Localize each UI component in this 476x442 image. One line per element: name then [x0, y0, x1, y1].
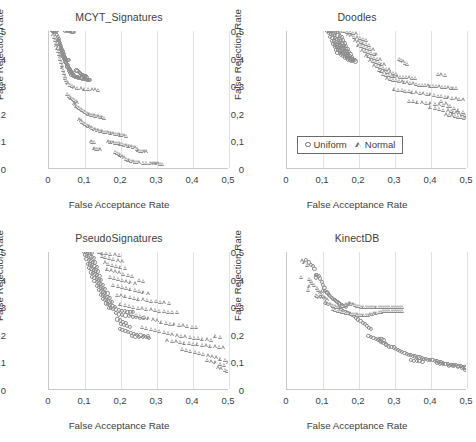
y-tick-label: 0,4	[231, 53, 244, 64]
y-tick-label: 0,4	[0, 53, 6, 64]
x-tick-label: 0,4	[185, 174, 198, 185]
x-tick-label: 0,2	[113, 174, 126, 185]
x-tick-label: 0,3	[387, 174, 400, 185]
panel-kinectdb: KinectDB False Rejection Rate False Acce…	[238, 221, 476, 442]
triangle-marker	[146, 291, 150, 295]
x-tick-label: 0	[283, 395, 288, 406]
circle-marker	[128, 325, 132, 329]
panel-pseudosignatures: PseudoSignatures False Rejection Rate Fa…	[0, 221, 238, 442]
x-axis-label: False Acceptance Rate	[0, 420, 238, 431]
panel-title: KinectDB	[238, 232, 476, 244]
x-tick-label: 0	[283, 174, 288, 185]
y-tick-label: 0,5	[0, 247, 6, 258]
triangle-marker	[457, 108, 461, 112]
x-tick-label: 0,4	[185, 395, 198, 406]
panel-title: MCYT_Signatures	[0, 11, 238, 23]
triangle-marker	[133, 281, 137, 285]
circle-marker	[88, 78, 92, 82]
circle-marker	[463, 367, 466, 371]
y-tick-label: 0	[239, 164, 244, 175]
x-tick-label: 0,2	[351, 395, 364, 406]
x-tick-label: 0	[45, 174, 50, 185]
legend-item-uniform: Uniform	[305, 139, 347, 150]
x-tick-label: 0,5	[221, 174, 234, 185]
figure-panel-grid: MCYT_Signatures False Rejection Rate Fal…	[0, 0, 476, 442]
triangle-marker	[92, 140, 96, 144]
triangle-marker	[400, 309, 404, 313]
y-tick-label: 0,5	[0, 26, 6, 37]
triangle-marker	[461, 97, 465, 101]
triangle-marker	[226, 360, 228, 364]
circle-marker	[71, 31, 75, 34]
circle-marker	[312, 266, 316, 270]
scatter-canvas	[49, 31, 228, 168]
y-tick-label: 0	[239, 385, 244, 396]
triangle-marker	[305, 263, 309, 267]
triangle-marker	[195, 325, 199, 329]
triangle-marker	[118, 253, 122, 257]
triangle-marker	[444, 101, 448, 105]
y-tick-label: 0	[1, 164, 6, 175]
x-tick-label: 0,1	[315, 174, 328, 185]
y-tick-label: 0,3	[0, 302, 6, 313]
triangle-marker	[443, 73, 447, 77]
x-tick-label: 0,5	[459, 174, 472, 185]
x-tick-label: 0,2	[113, 395, 126, 406]
triangle-marker	[167, 301, 171, 305]
triangle-marker	[413, 76, 417, 80]
triangle-marker	[120, 259, 124, 263]
y-tick-label: 0,4	[231, 274, 244, 285]
x-axis-label: False Acceptance Rate	[238, 199, 476, 210]
plot-area	[286, 252, 466, 390]
triangle-marker	[218, 335, 222, 339]
panel-title: Doodles	[238, 11, 476, 23]
x-tick-label: 0	[45, 395, 50, 406]
y-tick-label: 0,1	[231, 357, 244, 368]
circle-marker	[353, 59, 357, 63]
triangle-marker	[461, 110, 465, 114]
y-tick-label: 0,2	[0, 108, 6, 119]
legend-label: Uniform	[314, 139, 347, 150]
y-tick-label: 0,3	[231, 81, 244, 92]
triangle-marker	[123, 266, 127, 270]
plot-area: Uniform Normal	[286, 31, 466, 169]
y-tick-label: 0,3	[231, 302, 244, 313]
triangle-marker	[124, 134, 128, 138]
triangle-marker	[141, 279, 145, 283]
panel-doodles: Doodles False Rejection Rate Uniform Nor…	[238, 0, 476, 221]
triangle-marker	[99, 147, 103, 151]
triangle-marker	[453, 106, 457, 110]
gridline	[229, 252, 230, 389]
y-tick-label: 0,1	[231, 136, 244, 147]
y-tick-label: 0,2	[231, 108, 244, 119]
triangle-marker	[144, 149, 148, 153]
legend-label: Normal	[365, 139, 396, 150]
triangle-marker	[210, 338, 214, 342]
x-tick-label: 0,1	[77, 395, 90, 406]
y-tick-label: 0,5	[231, 247, 244, 258]
triangle-marker	[131, 274, 135, 278]
x-tick-label: 0,3	[149, 395, 162, 406]
triangle-marker	[455, 86, 459, 90]
circle-marker	[147, 335, 151, 339]
x-tick-label: 0,3	[387, 395, 400, 406]
x-axis-label: False Acceptance Rate	[238, 420, 476, 431]
triangle-marker	[97, 88, 101, 92]
x-tick-label: 0,5	[221, 395, 234, 406]
y-tick-label: 0,3	[0, 81, 6, 92]
triangle-marker	[226, 369, 228, 373]
legend-item-normal: Normal	[356, 139, 396, 150]
triangle-marker	[406, 62, 410, 66]
x-tick-label: 0,4	[423, 174, 436, 185]
y-tick-label: 0,2	[0, 329, 6, 340]
plot-area	[48, 31, 228, 169]
x-tick-label: 0,4	[423, 395, 436, 406]
triangle-marker	[103, 116, 107, 120]
x-axis-label: False Acceptance Rate	[0, 199, 238, 210]
legend: Uniform Normal	[297, 136, 403, 154]
panel-title: PseudoSignatures	[0, 232, 238, 244]
triangle-marker	[440, 99, 444, 103]
triangle-marker	[175, 310, 179, 314]
x-tick-label: 0,1	[77, 174, 90, 185]
gridline	[229, 31, 230, 168]
